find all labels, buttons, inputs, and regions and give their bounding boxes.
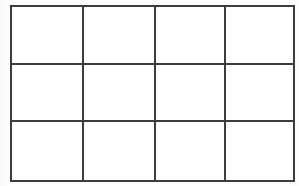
grid-cell-r1-c2[interactable] [84,7,156,65]
grid-cell-r3-c3[interactable] [156,122,226,180]
grid-cell-r3-c2[interactable] [84,122,156,180]
grid-cell-r1-c3[interactable] [156,7,226,65]
grid-cell-r1-c4[interactable] [226,7,293,65]
grid-cell-r3-c4[interactable] [226,122,293,180]
grid-cell-r2-c3[interactable] [156,65,226,122]
grid-cell-r3-c1[interactable] [12,122,84,180]
grid-cell-r2-c4[interactable] [226,65,293,122]
page-canvas [0,0,299,186]
grid-cell-r1-c1[interactable] [12,7,84,65]
grid-cell-r2-c2[interactable] [84,65,156,122]
grid-table [10,5,295,182]
grid-cell-r2-c1[interactable] [12,65,84,122]
